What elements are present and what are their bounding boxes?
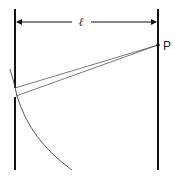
- distance-label: ℓ: [79, 15, 84, 29]
- point-p-marker: [156, 43, 160, 47]
- ray-bottom: [16, 45, 158, 96]
- diagram-canvas: ℓ P: [0, 0, 184, 178]
- wavefront-arc: [10, 69, 72, 170]
- ray-top: [15, 45, 158, 88]
- point-p-label: P: [163, 39, 171, 53]
